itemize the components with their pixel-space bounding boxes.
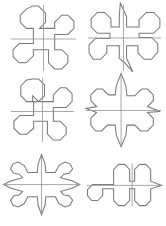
figure-4-svg [83, 70, 166, 150]
figure-1-svg [2, 2, 82, 74]
figure-4-outline [86, 73, 160, 146]
figure-5-svg [1, 148, 83, 222]
figure-2-svg [85, 0, 165, 76]
figure-cell-bottom-left: Eight-pointed spiky star with concave lo… [0, 144, 83, 226]
figure-cell-middle-right: Eight-pointed star with arrow spurs [83, 76, 166, 144]
figure-cell-top-left: Clover with octagonal lobes [0, 0, 83, 76]
figure-3-outline [13, 79, 71, 140]
figure-sheet: Clover with octagonal lobes Clover with … [0, 0, 166, 226]
figure-cell-top-right: Clover with pointed upper-left and lower… [83, 0, 166, 76]
figure-2-outline [89, 3, 160, 72]
figure-6-svg [85, 154, 165, 216]
figure-3-svg [3, 75, 81, 145]
figure-grid: Clover with octagonal lobes Clover with … [0, 0, 166, 226]
figure-cell-bottom-right: Clover with arrow spur on right and notc… [83, 144, 166, 226]
figure-cell-middle-left: Clover with notched upper-left quadrant [0, 76, 83, 144]
